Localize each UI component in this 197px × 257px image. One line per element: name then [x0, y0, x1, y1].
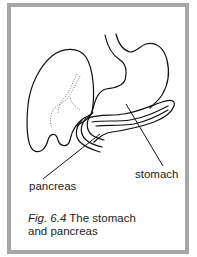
figure-number: Fig. 6.4	[28, 212, 66, 224]
bile-duct-dotted	[51, 76, 81, 128]
duodenum	[76, 120, 100, 152]
stomach-leader-line	[126, 104, 163, 166]
caption-line1: The stomach	[66, 212, 135, 224]
pancreas-leader-line	[43, 134, 100, 179]
stomach-outline	[76, 35, 126, 126]
figure-caption: Fig. 6.4 The stomach and pancreas	[28, 212, 136, 238]
stomach-label: stomach	[135, 168, 178, 180]
pancreas-label: pancreas	[29, 180, 76, 192]
caption-line2: and pancreas	[28, 225, 136, 238]
